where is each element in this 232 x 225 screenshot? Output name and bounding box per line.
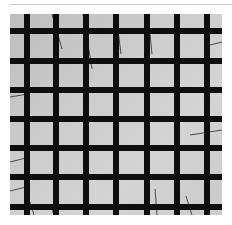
grid-lattice [10,14,222,215]
vertical-bar [174,14,180,215]
image-frame [0,0,232,225]
wire-line [155,189,157,215]
vertical-bar [83,14,89,215]
grid-photo [10,14,222,215]
vertical-bar [24,14,30,215]
vertical-bar [144,14,150,215]
vertical-bar [53,14,59,215]
vertical-bar [204,14,210,215]
top-divider [10,4,232,5]
vertical-bar [113,14,119,215]
